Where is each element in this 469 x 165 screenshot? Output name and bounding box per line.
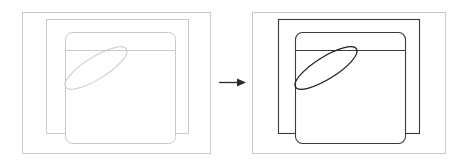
transition-arrow	[219, 79, 246, 87]
right-panel	[253, 13, 446, 154]
left-inner-rounded-rectangle	[66, 33, 176, 144]
left-panel	[23, 13, 211, 154]
arrow-head-icon	[237, 79, 246, 87]
diagram-canvas	[0, 0, 469, 165]
before-after-diagram	[0, 0, 469, 165]
right-inner-rounded-rectangle	[296, 33, 406, 144]
